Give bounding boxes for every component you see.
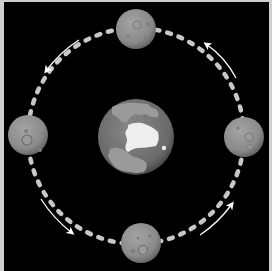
moon-top: [116, 9, 156, 49]
moon-bottom: [121, 223, 161, 263]
moon-right: [224, 117, 264, 157]
arrow-top-right-icon: [206, 44, 236, 78]
earth-ice-island: [162, 146, 166, 150]
arrow-bottom-left-icon: [41, 199, 72, 233]
moon-left: [8, 115, 48, 155]
earth: [98, 99, 174, 175]
earth-moon-orbit-diagram: [0, 0, 272, 271]
